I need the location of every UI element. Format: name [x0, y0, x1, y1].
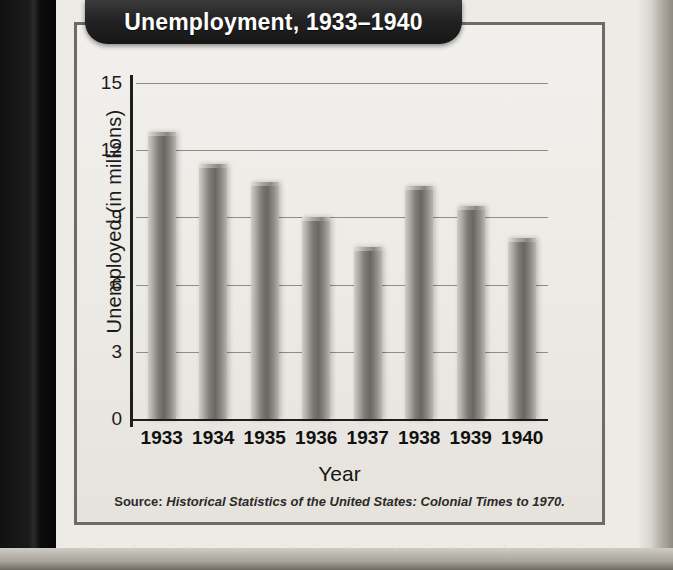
x-tick-label: 1939	[450, 427, 492, 449]
bar-cap	[354, 247, 382, 251]
bar	[457, 206, 485, 419]
source-title: Historical Statistics of the United Stat…	[166, 494, 565, 509]
chart-title: Unemployment, 1933–1940	[124, 9, 423, 36]
y-tick-label: 9	[111, 206, 122, 228]
y-tick-label: 6	[111, 273, 122, 295]
y-tick-label: 12	[101, 139, 122, 161]
gridline	[136, 150, 548, 151]
bar-cap	[302, 217, 330, 221]
bar	[148, 132, 176, 419]
x-tick-label: 1934	[192, 427, 234, 449]
bar	[405, 186, 433, 419]
bar-cap	[251, 182, 279, 186]
x-tick-label: 1935	[244, 427, 286, 449]
x-tick-label: 1933	[141, 427, 183, 449]
y-axis-line	[130, 75, 133, 427]
x-axis-line	[130, 419, 548, 421]
bar-cap	[405, 186, 433, 190]
page-edge-bottom	[0, 548, 673, 570]
page-edge-right	[639, 0, 673, 570]
source-label: Source:	[114, 494, 162, 509]
bar-cap	[508, 238, 536, 242]
y-tick-label: 0	[111, 408, 122, 430]
plot-area: 03691215 1933193419351936193719381939194…	[136, 83, 548, 419]
bar-cap	[148, 132, 176, 136]
x-tick-label: 1940	[501, 427, 543, 449]
gridline	[136, 285, 548, 286]
y-tick-label: 15	[101, 72, 122, 94]
x-axis-label: Year	[74, 462, 605, 486]
chart-plot-wrapper: Unemployed (in millions) 03691215 193319…	[74, 22, 605, 525]
x-tick-label: 1936	[295, 427, 337, 449]
bar	[302, 217, 330, 419]
bar	[199, 164, 227, 419]
bar-cap	[199, 164, 227, 168]
chart-title-banner: Unemployment, 1933–1940	[85, 0, 462, 44]
bar	[508, 238, 536, 419]
source-note: Source: Historical Statistics of the Uni…	[74, 494, 605, 509]
bar	[354, 247, 382, 419]
gridline	[136, 352, 548, 353]
gridline	[136, 83, 548, 84]
y-tick-label: 3	[111, 340, 122, 362]
bar	[251, 182, 279, 419]
x-tick-label: 1937	[347, 427, 389, 449]
x-tick-label: 1938	[398, 427, 440, 449]
bar-cap	[457, 206, 485, 210]
gridline	[136, 217, 548, 218]
